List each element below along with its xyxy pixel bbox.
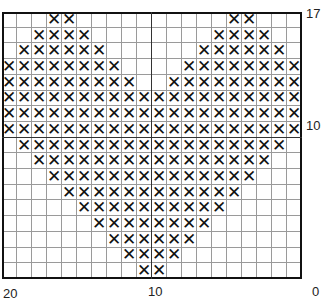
empty-cell <box>287 138 302 154</box>
empty-cell <box>92 248 107 264</box>
row-label-0: 0 <box>312 284 319 299</box>
cross-stitch-mark: ✕ <box>2 121 16 138</box>
empty-cell <box>287 200 302 216</box>
empty-cell <box>287 28 302 44</box>
empty-cell <box>272 232 287 248</box>
empty-cell <box>137 59 152 75</box>
stitch-cell: ✕ <box>197 216 212 232</box>
empty-cell <box>2 232 17 248</box>
empty-cell <box>182 28 197 44</box>
empty-cell <box>17 169 32 185</box>
empty-cell <box>17 153 32 169</box>
empty-cell <box>47 200 62 216</box>
empty-cell <box>242 216 257 232</box>
empty-cell <box>107 263 122 279</box>
column-label-20: 20 <box>3 286 17 301</box>
empty-cell <box>77 216 92 232</box>
empty-cell <box>257 216 272 232</box>
empty-cell <box>242 185 257 201</box>
empty-cell <box>2 12 17 28</box>
empty-cell <box>137 12 152 28</box>
empty-cell <box>152 59 167 75</box>
empty-cell <box>2 263 17 279</box>
cross-stitch-mark: ✕ <box>197 215 211 232</box>
stitch-cell: ✕ <box>32 153 47 169</box>
empty-cell <box>227 248 242 264</box>
empty-cell <box>92 232 107 248</box>
empty-cell <box>182 248 197 264</box>
empty-cell <box>287 12 302 28</box>
empty-cell <box>287 232 302 248</box>
stitch-cell: ✕ <box>92 216 107 232</box>
row-label-17: 17 <box>306 6 320 21</box>
empty-cell <box>272 216 287 232</box>
empty-cell <box>77 248 92 264</box>
stitch-cell: ✕ <box>122 248 137 264</box>
stitch-cell: ✕ <box>227 185 242 201</box>
empty-cell <box>227 200 242 216</box>
empty-cell <box>257 185 272 201</box>
empty-cell <box>137 28 152 44</box>
empty-cell <box>287 263 302 279</box>
empty-cell <box>32 248 47 264</box>
empty-cell <box>257 169 272 185</box>
stitch-cell: ✕ <box>47 169 62 185</box>
cross-stitch-mark: ✕ <box>227 184 241 201</box>
empty-cell <box>227 232 242 248</box>
empty-cell <box>122 28 137 44</box>
stitch-cell: ✕ <box>77 200 92 216</box>
empty-cell <box>287 248 302 264</box>
empty-cell <box>272 248 287 264</box>
empty-cell <box>152 12 167 28</box>
empty-cell <box>62 216 77 232</box>
empty-cell <box>272 200 287 216</box>
empty-cell <box>62 200 77 216</box>
empty-cell <box>242 200 257 216</box>
cross-stitch-mark: ✕ <box>62 184 76 201</box>
empty-cell <box>62 248 77 264</box>
stitch-cell: ✕ <box>287 122 302 138</box>
empty-cell <box>272 185 287 201</box>
empty-cell <box>197 263 212 279</box>
empty-cell <box>2 248 17 264</box>
stitch-cell: ✕ <box>62 185 77 201</box>
empty-cell <box>287 185 302 201</box>
empty-cell <box>227 263 242 279</box>
empty-cell <box>2 169 17 185</box>
cross-stitch-mark: ✕ <box>242 168 256 185</box>
empty-cell <box>272 169 287 185</box>
empty-cell <box>47 185 62 201</box>
center-vertical-line <box>151 12 152 279</box>
empty-cell <box>32 169 47 185</box>
empty-cell <box>47 232 62 248</box>
empty-cell <box>167 263 182 279</box>
empty-cell <box>122 43 137 59</box>
empty-cell <box>122 12 137 28</box>
major-horizontal-line <box>2 137 302 138</box>
empty-cell <box>47 216 62 232</box>
cross-stitch-mark: ✕ <box>32 152 46 169</box>
empty-cell <box>272 263 287 279</box>
empty-cell <box>152 28 167 44</box>
empty-cell <box>107 248 122 264</box>
empty-cell <box>212 216 227 232</box>
empty-cell <box>107 12 122 28</box>
cross-stitch-mark: ✕ <box>167 246 181 263</box>
cross-stitch-mark: ✕ <box>137 262 151 279</box>
empty-cell <box>272 153 287 169</box>
cross-stitch-mark: ✕ <box>182 231 196 248</box>
empty-cell <box>77 232 92 248</box>
empty-cell <box>2 185 17 201</box>
empty-cell <box>287 153 302 169</box>
empty-cell <box>257 232 272 248</box>
stitch-cell: ✕ <box>107 232 122 248</box>
cross-stitch-mark: ✕ <box>92 215 106 232</box>
empty-cell <box>32 200 47 216</box>
empty-cell <box>137 43 152 59</box>
empty-cell <box>107 28 122 44</box>
cross-stitch-mark: ✕ <box>272 137 286 154</box>
empty-cell <box>182 12 197 28</box>
stitch-cell: ✕ <box>182 232 197 248</box>
stitch-cell: ✕ <box>167 248 182 264</box>
empty-cell <box>17 232 32 248</box>
